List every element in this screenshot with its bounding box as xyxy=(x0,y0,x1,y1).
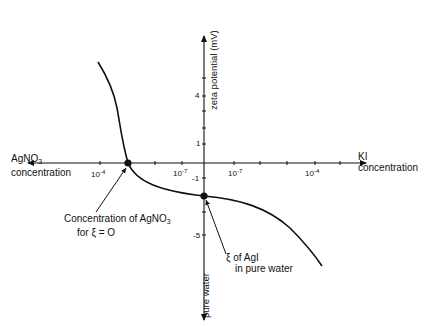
agno3-concentration-text: concentration xyxy=(11,167,71,178)
pure-water-axis-label: pure water xyxy=(200,273,211,318)
agno3-axis-label: AgNO3 concentration xyxy=(11,153,71,178)
agno3-label-sub: 3 xyxy=(38,158,42,165)
y-tick-minus-1: -1 xyxy=(192,174,199,183)
zero-crossing-point xyxy=(124,159,131,166)
agi-pure-water-annotation: ξ of AgI in pure water xyxy=(226,252,293,274)
ki-concentration-text: concentration xyxy=(358,162,418,173)
y-tick-1: 1 xyxy=(196,139,200,148)
x-tick-ki-1e-7: 10-7 xyxy=(228,167,242,178)
agno3-label-text: AgNO xyxy=(11,153,38,164)
agi-annotation-arrow xyxy=(206,200,226,254)
y-tick-minus-5: -5 xyxy=(193,231,200,240)
zeta-potential-axis-label: zeta potential (mV) xyxy=(208,30,219,110)
ki-axis-label: KI concentration xyxy=(358,151,418,173)
ki-label-text: KI xyxy=(358,151,367,162)
x-tick-agno3-1e-7: 10-7 xyxy=(173,167,187,178)
agno3-zero-zeta-annotation: Concentration of AgNO3 for ξ = O xyxy=(64,213,171,238)
x-axis xyxy=(28,161,366,165)
pure-water-point xyxy=(200,192,207,199)
x-tick-agno3-1e-4: 10-4 xyxy=(91,168,105,179)
y-tick-4: 4 xyxy=(195,91,199,100)
x-tick-ki-1e-4: 10-4 xyxy=(305,167,319,178)
